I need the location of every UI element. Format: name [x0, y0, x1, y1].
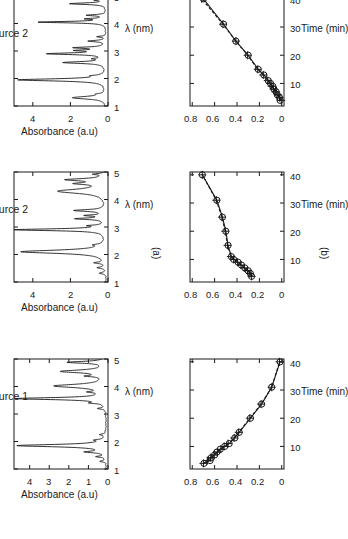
y-tick-label: 0.8 — [184, 289, 197, 300]
x-tick-label: 20 — [290, 51, 301, 62]
y-axis-title: Absorbance (a.u) — [21, 489, 98, 500]
y-tick-label: 2 — [68, 289, 73, 300]
x-tick-label: 5 — [114, 0, 119, 3]
x-tick-label: 40 — [290, 171, 301, 182]
y-tick-label: 0 — [279, 113, 284, 124]
x-tick-label: 10 — [290, 442, 301, 453]
y-tick-label: 4 — [30, 113, 35, 124]
x-tick-label: 3 — [114, 47, 119, 58]
y-tick-label: 0 — [105, 289, 110, 300]
y-tick-label: 0.6 — [206, 476, 219, 487]
y-axis-title: Absorbance (a.u) — [21, 302, 98, 313]
y-tick-label: 0.6 — [206, 289, 219, 300]
y-tick-label: 1 — [86, 476, 91, 487]
x-tick-label: 2 — [114, 438, 119, 449]
x-tick-label: 2 — [114, 251, 119, 262]
x-tick-label: 10 — [290, 255, 301, 266]
x-tick-label: 3 — [114, 410, 119, 421]
panel-kinetics-middle: 1020304000.20.40.60.8Time (min) — [182, 166, 310, 316]
x-tick-label: 20 — [290, 227, 301, 238]
panel-spectrum-top: 12345024λ (nm)Absorbance (a.u)Source 2 — [6, 0, 134, 140]
x-tick-label: 1 — [114, 102, 119, 113]
panel-kinetics-bottom: 1020304000.20.40.60.8Time (min) — [182, 353, 310, 503]
y-tick-label: 0.4 — [229, 113, 242, 124]
subfigure-label-a: (a) — [151, 247, 162, 259]
panel-title: Source 2 — [0, 203, 28, 215]
y-tick-label: 0.2 — [251, 289, 264, 300]
x-tick-label: 4 — [114, 383, 119, 394]
panel-spectrum-bottom: 1234501234λ (nm)Absorbance (a.u)Source 1 — [6, 353, 134, 503]
x-tick-label: 3 — [114, 223, 119, 234]
x-axis-title: λ (nm) — [125, 199, 153, 210]
y-tick-label: 0.8 — [184, 476, 197, 487]
x-axis-title: λ (nm) — [125, 386, 153, 397]
y-tick-label: 2 — [68, 113, 73, 124]
y-tick-label: 0 — [105, 113, 110, 124]
x-tick-label: 5 — [114, 355, 119, 366]
panel-title: Source 1 — [0, 390, 28, 402]
y-tick-label: 0 — [279, 289, 284, 300]
x-tick-label: 40 — [290, 0, 301, 6]
y-tick-label: 0.2 — [251, 476, 264, 487]
y-axis-title: Absorbance (a.u) — [21, 126, 98, 137]
y-tick-label: 2 — [66, 476, 71, 487]
x-axis-title: λ (nm) — [125, 23, 153, 34]
x-axis-title: Time (min) — [301, 386, 348, 397]
y-tick-label: 0.8 — [184, 113, 197, 124]
y-tick-label: 0.6 — [206, 113, 219, 124]
x-tick-label: 20 — [290, 414, 301, 425]
x-tick-label: 1 — [114, 465, 119, 476]
subfigure-label-b: (b) — [319, 247, 330, 259]
y-tick-label: 3 — [46, 476, 51, 487]
panel-title: Source 2 — [0, 27, 28, 39]
x-tick-label: 30 — [290, 23, 301, 34]
x-tick-label: 30 — [290, 386, 301, 397]
panel-spectrum-middle: 12345024λ (nm)Absorbance (a.u)Source 2 — [6, 166, 134, 316]
x-axis-title: Time (min) — [301, 199, 348, 210]
x-axis-title: Time (min) — [301, 23, 348, 34]
x-tick-label: 5 — [114, 168, 119, 179]
x-tick-label: 2 — [114, 75, 119, 86]
x-tick-label: 4 — [114, 20, 119, 31]
y-tick-label: 0 — [105, 476, 110, 487]
y-tick-label: 0.4 — [229, 289, 242, 300]
x-tick-label: 1 — [114, 278, 119, 289]
x-tick-label: 10 — [290, 79, 301, 90]
x-tick-label: 40 — [290, 358, 301, 369]
x-tick-label: 4 — [114, 196, 119, 207]
y-tick-label: 4 — [27, 476, 32, 487]
y-tick-label: 0 — [279, 476, 284, 487]
y-tick-label: 4 — [30, 289, 35, 300]
y-tick-label: 0.2 — [251, 113, 264, 124]
y-tick-label: 0.4 — [229, 476, 242, 487]
panel-kinetics-top: 1020304000.20.40.60.8Time (min) — [182, 0, 310, 140]
x-tick-label: 30 — [290, 199, 301, 210]
